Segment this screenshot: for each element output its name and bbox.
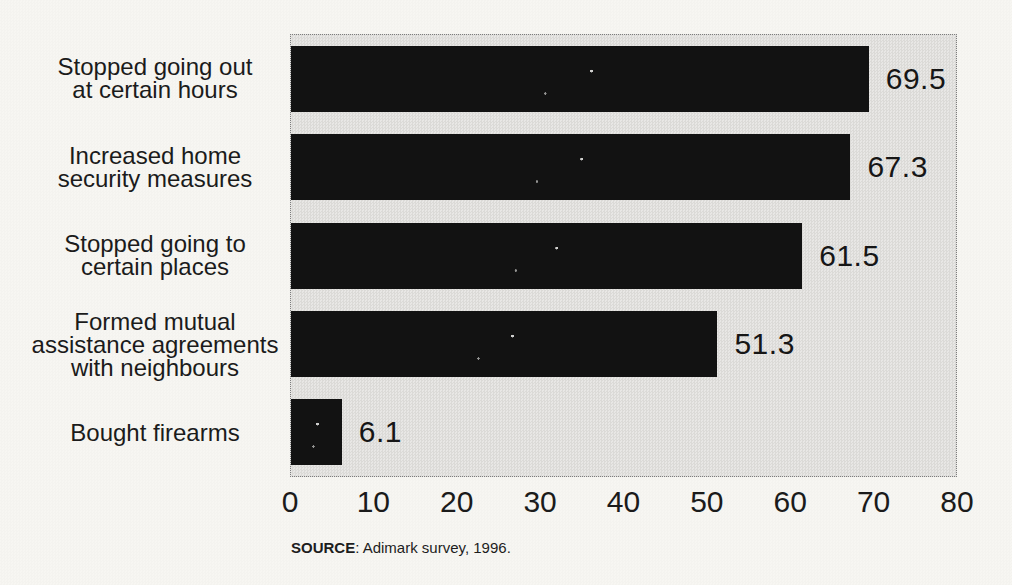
bar [291,399,342,465]
category-label: Formed mutual assistance agreements with… [22,300,288,389]
bar-value-label: 61.5 [819,239,879,273]
x-tick-label: 60 [774,484,807,520]
x-tick-label: 40 [607,484,640,520]
bar-row: 6.1 [291,388,956,476]
x-tick-label: 10 [357,484,390,520]
bar [291,134,850,200]
bar-row: 69.5 [291,35,956,123]
x-tick-label: 50 [690,484,723,520]
x-tick-label: 70 [857,484,890,520]
bar-value-label: 6.1 [359,415,402,449]
bar-row: 61.5 [291,211,956,299]
x-tick-label: 20 [440,484,473,520]
category-labels-column: Stopped going out at certain hoursIncrea… [22,34,288,477]
x-tick-label: 80 [940,484,973,520]
source-label: SOURCE [291,539,355,556]
bar-value-label: 67.3 [867,150,927,184]
category-label: Bought firearms [22,388,288,477]
bar [291,46,869,112]
bar-rows: 69.567.361.551.36.1 [291,35,956,476]
plot-area: 69.567.361.551.36.1 [290,34,957,477]
bar-row: 51.3 [291,300,956,388]
bar [291,223,802,289]
bar-value-label: 51.3 [734,327,794,361]
scanned-bar-chart-page: Stopped going out at certain hoursIncrea… [0,0,1012,585]
x-axis: 01020304050607080 [290,484,957,520]
bar [291,311,717,377]
x-tick-label: 0 [282,484,299,520]
source-note: SOURCE: Adimark survey, 1996. [291,539,511,556]
bar-value-label: 69.5 [886,62,946,96]
source-text: : Adimark survey, 1996. [355,539,511,556]
category-label: Stopped going out at certain hours [22,34,288,123]
bar-row: 67.3 [291,123,956,211]
category-label: Stopped going to certain places [22,211,288,300]
category-label: Increased home security measures [22,123,288,212]
x-tick-label: 30 [523,484,556,520]
